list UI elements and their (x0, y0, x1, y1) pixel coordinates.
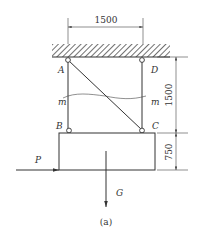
pin-c (140, 128, 145, 133)
dimension-right: 1500 750 (157, 57, 188, 170)
figure-caption: (a) (100, 217, 112, 227)
force-p: P (16, 155, 59, 170)
dimension-label-lower: 750 (164, 143, 174, 160)
node-label-b: B (55, 121, 63, 131)
member-ac-diagonal (68, 60, 142, 130)
fixed-support-ceiling (52, 44, 170, 57)
section-label-right: m (151, 97, 160, 107)
force-label-p: P (34, 155, 42, 165)
rigid-block (59, 133, 155, 170)
pin-b (67, 128, 72, 133)
dimension-label-upper: 1500 (164, 83, 174, 106)
node-label-c: C (152, 121, 159, 131)
pin-d (140, 58, 145, 63)
truss-members (68, 60, 142, 130)
node-label-a: A (57, 65, 65, 75)
dimension-top-width: 1500 (68, 15, 143, 44)
pin-a (66, 58, 71, 63)
section-label-left: m (58, 97, 67, 107)
truss-diagram: 1500 A D B C m m 1500 750 P G (0, 0, 200, 241)
dimension-label-top: 1500 (95, 15, 118, 25)
node-label-d: D (150, 65, 158, 75)
force-label-g: G (116, 188, 123, 198)
